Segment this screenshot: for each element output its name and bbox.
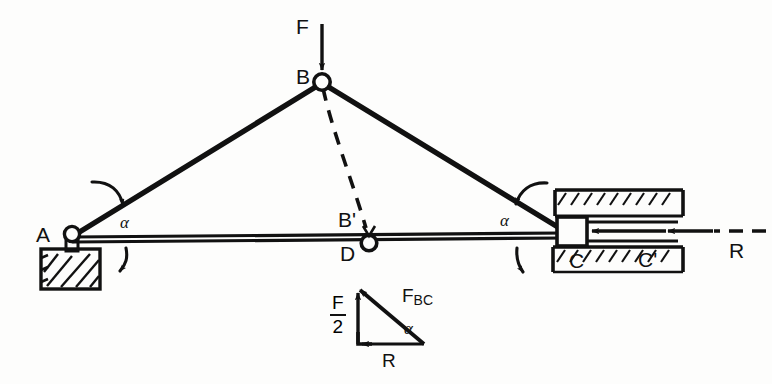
reaction-r-label: R xyxy=(729,240,744,261)
joint-d-label: D xyxy=(340,243,355,264)
diagram-canvas: F B A B' D C C' R α α F 2 FBC α R xyxy=(0,0,772,384)
triangle-f-denominator: 2 xyxy=(330,317,346,337)
angle-alpha-right-label: α xyxy=(500,212,509,229)
force-f-label: F xyxy=(296,16,309,37)
slider-block-c xyxy=(557,217,587,246)
member-ac-lower-edge xyxy=(73,238,566,242)
support-a-ground xyxy=(41,240,100,289)
triangle-r-label: R xyxy=(382,351,396,370)
angle-alpha-left-label: α xyxy=(120,214,129,231)
slider-c-prime-label: C' xyxy=(638,249,657,270)
hatching-upper xyxy=(558,193,670,205)
triangle-fbc-label: FBC xyxy=(402,286,433,307)
joint-b-prime-label: B' xyxy=(338,209,356,230)
joint-a-pin xyxy=(64,226,79,241)
triangle-f-over-2-label: F 2 xyxy=(330,293,346,337)
triangle-f-numerator: F xyxy=(330,293,346,313)
support-a-label: A xyxy=(36,224,50,245)
joint-d-pin xyxy=(361,226,377,251)
slider-c-label: C xyxy=(569,250,584,271)
member-ac xyxy=(73,233,566,237)
triangle-fbc-main: F xyxy=(402,285,414,306)
motion-arrows xyxy=(92,182,547,272)
mechanism-drawing xyxy=(0,0,772,384)
joint-b-label: B xyxy=(296,66,310,87)
triangle-angle-label: α xyxy=(404,320,413,337)
member-ab xyxy=(73,83,322,236)
triangle-fbc-subscript: BC xyxy=(414,292,433,308)
joint-b xyxy=(314,24,330,90)
